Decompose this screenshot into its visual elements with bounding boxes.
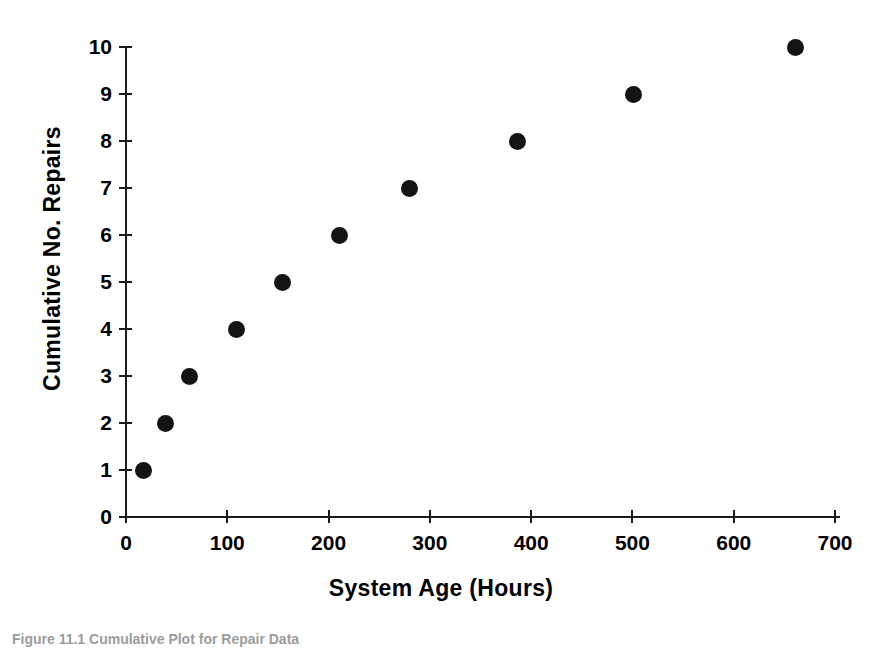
x-tick bbox=[530, 510, 532, 523]
data-point bbox=[401, 180, 418, 197]
data-point bbox=[274, 274, 291, 291]
data-point bbox=[787, 39, 804, 56]
x-tick bbox=[733, 510, 735, 523]
y-tick bbox=[119, 234, 132, 236]
scatter-plot: 0100200300400500600700 012345678910 bbox=[0, 0, 882, 585]
x-tick-label: 300 bbox=[395, 531, 465, 555]
x-tick bbox=[226, 510, 228, 523]
data-point bbox=[331, 227, 348, 244]
x-tick-label: 500 bbox=[597, 531, 667, 555]
data-point bbox=[181, 368, 198, 385]
x-tick-label: 700 bbox=[800, 531, 870, 555]
y-tick bbox=[119, 93, 132, 95]
x-tick-label: 100 bbox=[192, 531, 262, 555]
y-axis-title: Cumulative No. Repairs bbox=[39, 24, 66, 494]
data-point bbox=[509, 133, 526, 150]
x-tick bbox=[834, 510, 836, 523]
x-tick bbox=[429, 510, 431, 523]
x-tick bbox=[328, 510, 330, 523]
y-tick bbox=[119, 469, 132, 471]
x-tick-label: 200 bbox=[294, 531, 364, 555]
y-tick bbox=[119, 140, 132, 142]
data-point bbox=[157, 415, 174, 432]
x-tick bbox=[631, 510, 633, 523]
y-tick bbox=[119, 187, 132, 189]
y-tick bbox=[119, 422, 132, 424]
data-point bbox=[135, 462, 152, 479]
y-tick bbox=[119, 375, 132, 377]
y-tick bbox=[119, 328, 132, 330]
data-point bbox=[625, 86, 642, 103]
x-tick-label: 600 bbox=[699, 531, 769, 555]
y-tick bbox=[119, 281, 132, 283]
x-tick-label: 400 bbox=[496, 531, 566, 555]
y-tick-label: 0 bbox=[52, 506, 112, 527]
data-point bbox=[228, 321, 245, 338]
y-tick bbox=[119, 46, 132, 48]
y-tick bbox=[119, 516, 132, 518]
figure-caption: Figure 11.1 Cumulative Plot for Repair D… bbox=[12, 631, 299, 647]
x-axis-title: System Age (Hours) bbox=[0, 575, 882, 602]
figure-container: 0100200300400500600700 012345678910 Syst… bbox=[0, 0, 882, 656]
